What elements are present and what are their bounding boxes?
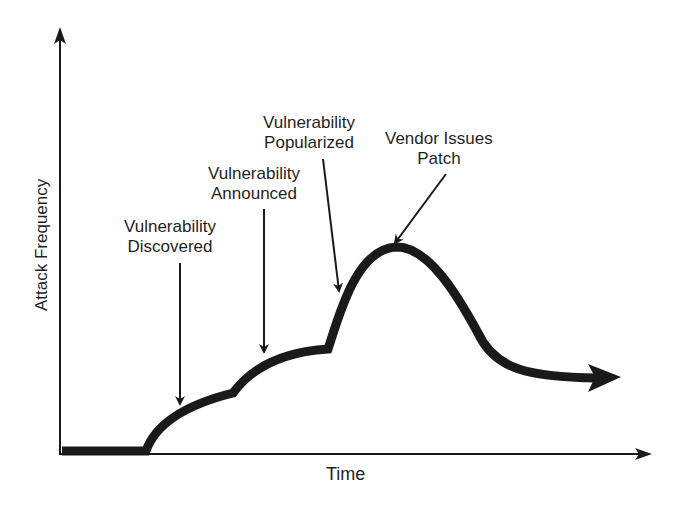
popularized-pointer <box>323 159 339 291</box>
diagram-canvas <box>0 0 683 508</box>
annotation-popularized-line2: Popularized <box>263 133 355 153</box>
patch-pointer <box>395 174 446 243</box>
annotation-popularized: Vulnerability Popularized <box>263 113 355 153</box>
x-axis-label: Time <box>326 464 365 485</box>
annotation-announced: Vulnerability Announced <box>208 164 300 204</box>
attack-frequency-curve <box>62 247 621 451</box>
annotation-patch: Vendor Issues Patch <box>385 129 493 169</box>
annotation-discovered: Vulnerability Discovered <box>124 217 216 257</box>
y-axis <box>54 27 66 455</box>
annotation-discovered-line2: Discovered <box>124 237 216 257</box>
annotation-patch-line1: Vendor Issues <box>385 129 493 149</box>
annotation-announced-line2: Announced <box>208 184 300 204</box>
annotation-patch-line2: Patch <box>385 149 493 169</box>
annotation-popularized-line1: Vulnerability <box>263 113 355 133</box>
y-axis-label: Attack Frequency <box>32 179 52 311</box>
annotation-discovered-line1: Vulnerability <box>124 217 216 237</box>
annotation-announced-line1: Vulnerability <box>208 164 300 184</box>
